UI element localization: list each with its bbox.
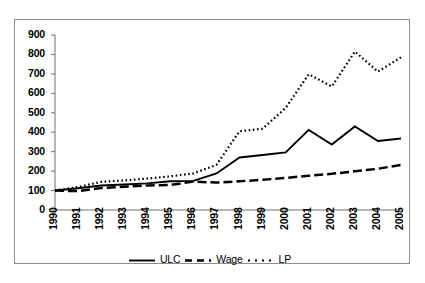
y-axis-tick-label: 600 — [15, 86, 45, 98]
x-axis-tick-label: 2001 — [301, 207, 313, 230]
chart-page: 0100200300400500600700800900 19901991199… — [0, 0, 425, 283]
series-line-wage — [55, 165, 401, 191]
x-axis-tick-label: 1994 — [139, 207, 151, 230]
axis-layer — [51, 35, 401, 214]
x-axis-tick-label: 2003 — [347, 207, 359, 230]
x-axis-tick-label: 1992 — [93, 207, 105, 230]
x-axis-tick-label: 1996 — [185, 207, 197, 230]
x-axis-tick-label: 1993 — [116, 207, 128, 230]
series-layer — [55, 52, 401, 192]
series-line-lp — [55, 52, 401, 191]
x-axis-tick-label: 1991 — [70, 207, 82, 230]
legend-swatch-wage-icon — [185, 255, 211, 264]
x-axis-tick-label: 2000 — [278, 207, 290, 230]
chart-frame: 0100200300400500600700800900 19901991199… — [14, 19, 410, 264]
legend-swatch-ulc-icon — [129, 255, 155, 264]
legend-swatch-lp-icon — [248, 255, 274, 264]
legend-item-ulc: ULC — [129, 253, 185, 265]
y-axis-tick-label: 0 — [15, 203, 45, 215]
x-axis-tick-label: 2002 — [324, 207, 336, 230]
y-axis-tick-label: 300 — [15, 145, 45, 157]
y-axis-tick-label: 500 — [15, 106, 45, 118]
chart-legend: ULCWageLP — [0, 253, 425, 265]
legend-label-ulc: ULC — [158, 253, 185, 265]
x-axis-tick-label: 1998 — [232, 207, 244, 230]
y-axis-tick-label: 100 — [15, 184, 45, 196]
y-axis-tick-label: 900 — [15, 28, 45, 40]
y-axis-tick-label: 800 — [15, 47, 45, 59]
legend-item-wage: Wage — [185, 253, 247, 265]
y-axis-tick-label: 200 — [15, 164, 45, 176]
x-axis-tick-label: 2004 — [370, 207, 382, 230]
legend-label-wage: Wage — [214, 253, 247, 265]
y-axis-tick-label: 400 — [15, 125, 45, 137]
x-axis-tick-label: 1995 — [162, 207, 174, 230]
x-axis-tick-label: 1999 — [255, 207, 267, 230]
y-axis-tick-label: 700 — [15, 67, 45, 79]
x-axis-tick-label: 1997 — [208, 207, 220, 230]
legend-label-lp: LP — [277, 253, 296, 265]
x-axis-tick-label: 1990 — [47, 207, 59, 230]
legend-item-lp: LP — [248, 253, 296, 265]
x-axis-tick-label: 2005 — [393, 207, 405, 230]
